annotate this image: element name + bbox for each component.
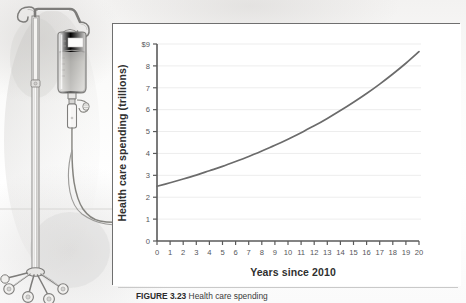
x-tick-label: 18 xyxy=(389,248,397,257)
y-tick-label: $9 xyxy=(142,40,150,49)
x-tick-label: 11 xyxy=(297,248,305,257)
x-tick-label: 14 xyxy=(336,248,344,257)
x-tick-label: 6 xyxy=(233,248,237,257)
x-tick-label: 1 xyxy=(168,248,172,257)
x-tick-label: 9 xyxy=(273,248,277,257)
iv-drip-chamber xyxy=(68,104,77,128)
y-tick-label: 2 xyxy=(146,193,150,202)
plot-background xyxy=(113,24,461,286)
figure-caption: FIGURE 3.23 Health care spending xyxy=(136,291,446,302)
x-tick-label: 2 xyxy=(181,248,185,257)
x-axis-title: Years since 2010 xyxy=(250,266,336,278)
y-tick-label: 6 xyxy=(146,105,150,114)
x-tick-label: 19 xyxy=(402,248,410,257)
x-tick-label: 8 xyxy=(260,248,264,257)
x-tick-label: 15 xyxy=(349,248,357,257)
iv-fluid-bag xyxy=(58,30,86,94)
figure-caption-label: FIGURE 3.23 xyxy=(136,291,186,301)
caption-divider xyxy=(118,287,458,288)
x-tick-label: 13 xyxy=(323,248,331,257)
x-tick-label: 7 xyxy=(247,248,251,257)
y-tick-label: 8 xyxy=(146,62,150,71)
figure-caption-text: Health care spending xyxy=(189,291,268,301)
iv-pole xyxy=(31,16,40,274)
iv-outlet-port xyxy=(68,93,76,104)
illustration-background-shading xyxy=(4,10,110,288)
x-tick-label: 0 xyxy=(155,248,159,257)
figure-panel: 012345678$9 0123456789101112131415161718… xyxy=(112,23,460,285)
x-tick-label: 10 xyxy=(284,248,292,257)
x-tick-label: 5 xyxy=(220,248,224,257)
y-tick-label: 1 xyxy=(146,215,150,224)
y-tick-label: 3 xyxy=(146,171,150,180)
x-tick-label: 12 xyxy=(310,248,318,257)
x-tick-label: 20 xyxy=(415,248,423,257)
y-tick-label: 5 xyxy=(146,127,150,136)
x-tick-label: 3 xyxy=(194,248,198,257)
health-care-spending-chart: 012345678$9 0123456789101112131415161718… xyxy=(113,24,461,286)
x-tick-label: 16 xyxy=(362,248,370,257)
y-tick-label: 4 xyxy=(146,149,150,158)
y-tick-label: 7 xyxy=(146,84,150,93)
x-tick-label: 4 xyxy=(207,248,211,257)
iv-drip-stand-illustration xyxy=(0,0,118,303)
x-tick-label: 17 xyxy=(375,248,383,257)
y-axis-title: Health care spending (trillions) xyxy=(116,64,128,221)
y-tick-label: 0 xyxy=(146,237,150,246)
